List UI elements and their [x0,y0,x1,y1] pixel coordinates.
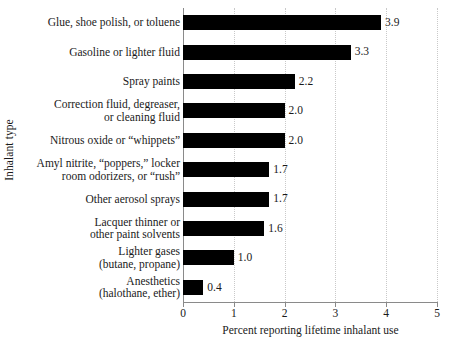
x-axis-line [183,302,438,303]
bar-row: 3.3 [183,37,437,66]
category-label: Spray paints [10,75,180,88]
category-label: Anesthetics (halothane, ether) [10,275,180,300]
bar [183,133,285,148]
x-tick-label-2: 2 [270,307,300,319]
bar [183,162,269,177]
bar [183,221,264,236]
bar-row: 2.0 [183,126,437,155]
category-label: Nitrous oxide or “whippets” [10,134,180,147]
bar-value-label: 0.4 [207,282,221,294]
gridline-5 [437,8,438,302]
bar-value-label: 1.6 [268,223,282,235]
category-label: Lighter gases (butane, propane) [10,245,180,270]
bar-value-label: 1.0 [238,252,252,264]
x-axis-title: Percent reporting lifetime inhalant use [183,324,438,336]
bar-value-label: 2.0 [289,105,303,117]
bar-value-label: 1.7 [273,193,287,205]
x-tick-label-5: 5 [422,307,452,319]
category-label: Lacquer thinner or other paint solvents [10,216,180,241]
bar [183,280,203,295]
bar-row: 3.9 [183,8,437,37]
x-tick-label-0: 0 [168,307,198,319]
category-label: Glue, shoe polish, or toluene [10,16,180,29]
x-tick-label-4: 4 [371,307,401,319]
bar [183,74,295,89]
category-label: Correction fluid, degreaser, or cleaning… [10,98,180,123]
x-tick-label-1: 1 [219,307,249,319]
bar-value-label: 1.7 [273,164,287,176]
bar-row: 2.0 [183,96,437,125]
bar [183,45,351,60]
bar [183,103,285,118]
bar-row: 1.7 [183,184,437,213]
category-label: Gasoline or lighter fluid [10,46,180,59]
bar [183,250,234,265]
bar-row: 1.0 [183,243,437,272]
category-label: Other aerosol sprays [10,193,180,206]
bar-value-label: 2.0 [289,135,303,147]
category-label: Amyl nitrite, “poppers,” locker room odo… [10,157,180,182]
bar-row: 2.2 [183,67,437,96]
plot-area: 3.93.32.22.02.01.71.71.61.00.4 [183,8,437,302]
bar-value-label: 3.3 [355,46,369,58]
inhalant-use-bar-chart: Inhalant type 3.93.32.22.02.01.71.71.61.… [0,0,457,360]
bar-value-label: 3.9 [385,17,399,29]
bar-row: 1.6 [183,214,437,243]
x-tick-label-3: 3 [320,307,350,319]
bar [183,192,269,207]
bar-row: 1.7 [183,155,437,184]
bar [183,15,381,30]
bar-row: 0.4 [183,273,437,302]
bar-value-label: 2.2 [299,76,313,88]
